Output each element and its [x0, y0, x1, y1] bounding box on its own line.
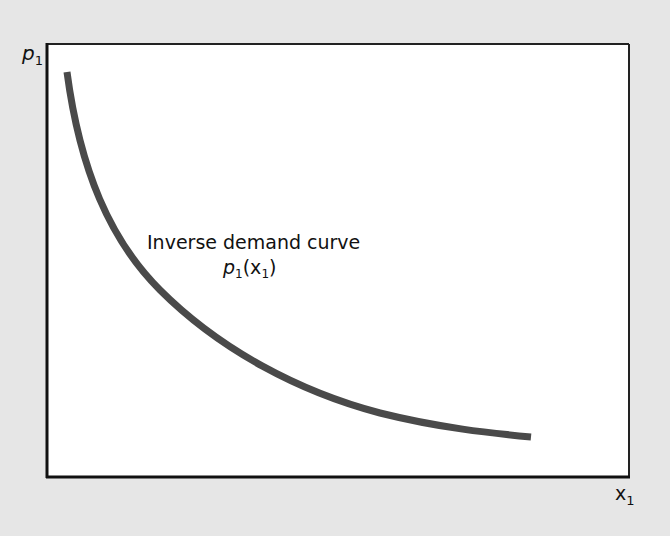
demand-curve-figure: p1 x1 Inverse demand curve p1(x1) — [0, 0, 670, 536]
x-axis-label: x1 — [615, 482, 635, 508]
curve-label-function: p1(x1) — [222, 256, 276, 281]
y-axis-label: p1 — [21, 41, 43, 68]
curve-label-title: Inverse demand curve — [147, 231, 360, 253]
